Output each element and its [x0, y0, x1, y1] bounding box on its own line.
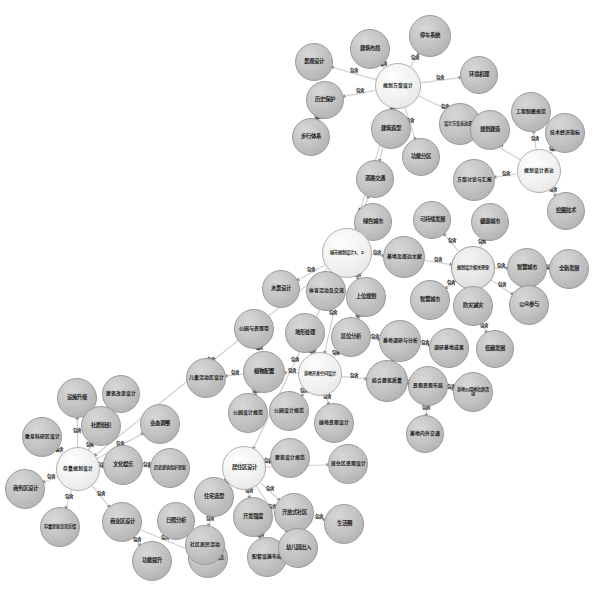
graph-node-label: 建筑设计规范: [273, 455, 308, 460]
graph-node[interactable]: 居住区景观设计: [328, 444, 368, 484]
graph-node-label: 停车系统: [412, 33, 449, 39]
graph-node-label: 居住区设计: [225, 465, 264, 471]
graph-node[interactable]: 历史保护: [306, 81, 344, 119]
graph-node[interactable]: 开放式社区: [274, 493, 314, 533]
graph-node-label: 公众参与: [512, 302, 547, 308]
graph-node[interactable]: 建筑布局: [350, 29, 390, 69]
graph-node[interactable]: 公园设计规范: [269, 391, 309, 431]
graph-node[interactable]: 基地内外交通: [406, 415, 444, 453]
graph-node-label: 儿童活动区设计: [189, 375, 224, 380]
graph-node[interactable]: 方案讨论与汇报: [453, 159, 495, 201]
graph-node[interactable]: 功能提升: [132, 541, 172, 581]
graph-node[interactable]: 公众参与: [509, 285, 549, 325]
graph-node-label: 公园与景观带: [237, 326, 272, 331]
graph-node[interactable]: 规划设计表达: [517, 149, 561, 193]
graph-node[interactable]: 地形处理: [285, 313, 325, 353]
graph-node[interactable]: 规划方案设计: [375, 63, 421, 109]
graph-node[interactable]: 道路交通: [356, 160, 394, 198]
graph-node-label: 基地调研与分析: [382, 338, 419, 343]
graph-node-label: 历史建筑保护更新: [153, 466, 188, 470]
graph-node-label: 基地及周边文献: [386, 254, 423, 259]
graph-node[interactable]: 住宅选型: [194, 477, 234, 517]
graph-node[interactable]: 开发强度: [233, 497, 273, 537]
graph-node[interactable]: 商务区设计: [5, 469, 45, 509]
graph-node[interactable]: 社群组织: [81, 406, 121, 446]
graph-node[interactable]: 可持续发展: [413, 201, 451, 239]
graph-node[interactable]: 绿地景观设计: [314, 403, 354, 443]
graph-node[interactable]: 全新发展: [549, 249, 589, 289]
graph-node[interactable]: 步行体系: [292, 118, 330, 156]
graph-node[interactable]: 基地公用地社群活动: [453, 372, 493, 412]
graph-node[interactable]: 规划建造: [470, 110, 510, 150]
graph-node[interactable]: 景观景观布局: [408, 366, 448, 406]
graph-node[interactable]: 儿童活动区设计: [186, 358, 226, 398]
graph-node-label: 商业区设计: [105, 519, 140, 525]
graph-node-label: 日照分析: [159, 518, 192, 524]
graph-node[interactable]: 停车系统: [409, 15, 451, 57]
graph-node-label: 智慧城市: [413, 297, 448, 303]
graph-node-label: 城市规划设计1、2: [325, 251, 369, 255]
graph-node-label: 存量更新意见反馈: [43, 525, 78, 529]
graph-node[interactable]: 存量更新意见反馈: [40, 507, 80, 547]
graph-node-label: 景观景观布局: [411, 383, 446, 388]
graph-node-label: 综合建筑质量: [369, 378, 406, 383]
graph-node[interactable]: 健康城市: [471, 203, 509, 241]
graph-node[interactable]: 基地调研与分析: [379, 320, 421, 362]
graph-node-label: 基地开发空间设计: [301, 372, 340, 376]
graph-node-label: 功能分区: [404, 154, 437, 160]
graph-node[interactable]: 基地开发空间设计: [298, 352, 342, 396]
graph-node[interactable]: 建筑造型: [371, 109, 411, 149]
graph-node[interactable]: 文化娱乐: [103, 445, 143, 485]
graph-node-label: 社群组织: [84, 423, 119, 429]
knowledge-graph-canvas[interactable]: 包含包含包含包含包含包含包含包含包含包含包含包含包含包含包含包含包含包含包含包含…: [0, 0, 597, 597]
graph-node-label: 防灾减灾: [456, 303, 491, 309]
graph-node-label: 绿色城市: [356, 219, 389, 225]
graph-node-label: 公园设计规范: [272, 408, 307, 413]
graph-edge: [332, 67, 376, 79]
graph-node[interactable]: 公园与景观带: [234, 309, 274, 349]
graph-node[interactable]: 公园设计规范: [228, 393, 268, 433]
graph-edge: [444, 234, 458, 251]
graph-node[interactable]: 生活圈: [324, 504, 364, 544]
graph-node[interactable]: 规划设计相关理论: [451, 246, 495, 290]
graph-node-label: 水景设计: [264, 286, 297, 292]
graph-node-label: 公园设计规范: [231, 410, 266, 415]
graph-node[interactable]: 功能分区: [402, 138, 440, 176]
graph-node[interactable]: 社区居民活动: [185, 525, 225, 565]
graph-node[interactable]: 上位规划: [346, 277, 386, 317]
graph-node[interactable]: 幼儿园出入: [278, 528, 318, 568]
graph-edge: [226, 374, 243, 376]
graph-node[interactable]: 智慧城市: [410, 280, 450, 320]
graph-node-label: 环境机理: [462, 72, 495, 78]
graph-node[interactable]: 环境机理: [460, 56, 498, 94]
graph-node[interactable]: 植物配置: [243, 351, 285, 393]
graph-node[interactable]: 绘图技术: [547, 192, 585, 230]
graph-node-label: 功能提升: [135, 558, 170, 564]
graph-node-label: 低碳发展: [478, 346, 511, 352]
graph-node-label: 规划方案设计: [378, 83, 418, 88]
graph-node[interactable]: 教育科研区设计: [22, 417, 62, 457]
graph-node[interactable]: 商业区设计: [102, 502, 142, 542]
graph-node-label: 健康城市: [473, 219, 506, 225]
graph-node[interactable]: 防灾减灾: [453, 286, 493, 326]
graph-node[interactable]: 智慧城市: [507, 248, 547, 288]
graph-node[interactable]: 基地及周边文献: [383, 236, 425, 278]
graph-node[interactable]: 调研基地成果: [429, 328, 469, 368]
graph-node[interactable]: 水景设计: [262, 270, 300, 308]
graph-node[interactable]: 区位分析: [331, 317, 371, 357]
graph-node[interactable]: 业态调整: [140, 404, 180, 444]
graph-node[interactable]: 低碳发展: [476, 330, 514, 368]
graph-node-label: 开放式社区: [277, 510, 312, 516]
graph-node-label: 存量规划设计: [59, 466, 98, 471]
graph-node-label: 规划设计表达: [520, 168, 559, 173]
graph-node[interactable]: 历史建筑保护更新: [150, 448, 190, 488]
graph-node[interactable]: 体育活动及交流: [306, 271, 346, 311]
graph-node[interactable]: 建筑设计规范: [270, 438, 310, 478]
graph-node-label: 社区居民活动: [188, 542, 223, 547]
graph-node[interactable]: 景观设计: [295, 43, 333, 81]
graph-node[interactable]: 存量规划设计: [56, 447, 100, 491]
graph-edge: [372, 255, 383, 256]
graph-node[interactable]: 综合建筑质量: [366, 360, 408, 402]
graph-node[interactable]: 技术经济指标: [545, 113, 585, 153]
graph-node-label: 建筑布局: [353, 46, 388, 52]
